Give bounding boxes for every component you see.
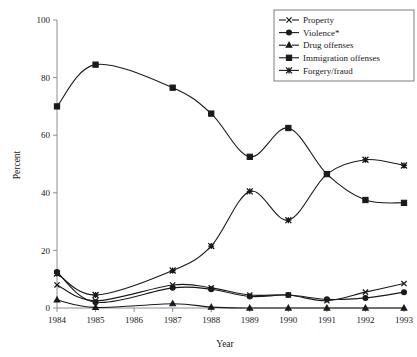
marker-triangle (208, 304, 214, 309)
y-axis-title: Percent (12, 150, 22, 179)
y-axis: 020406080100 Percent (12, 15, 57, 313)
x-tick-label: 1988 (202, 315, 221, 325)
y-tick-label: 40 (41, 188, 51, 198)
marker-asterisk (401, 162, 407, 168)
marker-circle (287, 30, 292, 35)
x-axis-title: Year (216, 339, 234, 349)
marker-asterisk (286, 67, 292, 73)
y-axis-ticks: 020406080100 (37, 15, 58, 313)
series-forgery-fraud (54, 157, 407, 298)
marker-circle (247, 294, 252, 299)
marker-triangle (324, 305, 330, 310)
marker-circle (363, 295, 368, 300)
marker-asterisk (170, 268, 176, 274)
x-axis-ticks: 1984198519861987198819891990199119921993 (48, 308, 414, 325)
marker-circle (209, 287, 214, 292)
legend-label: Forgery/fraud (303, 66, 353, 76)
marker-asterisk (324, 171, 330, 177)
marker-square (93, 62, 98, 67)
series-immigration-offenses (54, 62, 406, 205)
marker-square (363, 197, 368, 202)
y-tick-label: 100 (37, 15, 51, 25)
series-path (57, 272, 404, 303)
marker-asterisk (208, 243, 214, 249)
x-axis: 1984198519861987198819891990199119921993… (48, 308, 414, 349)
series-layer (54, 62, 407, 310)
x-tick-label: 1986 (125, 315, 144, 325)
marker-square (209, 111, 214, 116)
marker-square (54, 104, 59, 109)
legend-label: Immigration offenses (303, 53, 381, 63)
marker-asterisk (285, 217, 291, 223)
series-path (57, 284, 404, 301)
y-tick-label: 80 (41, 73, 51, 83)
line-chart-svg: 020406080100 Percent 1984198519861987198… (0, 0, 417, 357)
legend-label: Violence* (303, 28, 340, 38)
marker-asterisk (247, 188, 253, 194)
marker-triangle (285, 305, 291, 310)
x-tick-label: 1985 (87, 315, 106, 325)
marker-triangle (54, 297, 60, 302)
marker-square (286, 55, 291, 60)
marker-square (170, 85, 175, 90)
marker-circle (170, 285, 175, 290)
marker-square (247, 154, 252, 159)
marker-square (286, 125, 291, 130)
x-tick-label: 1992 (356, 315, 374, 325)
x-tick-label: 1990 (279, 315, 298, 325)
marker-triangle (170, 301, 176, 306)
series-path (57, 64, 404, 203)
legend-label: Property (303, 15, 334, 25)
marker-triangle (247, 305, 253, 310)
series-path (57, 159, 404, 295)
y-tick-label: 60 (41, 130, 51, 140)
x-tick-label: 1993 (395, 315, 414, 325)
x-tick-label: 1991 (318, 315, 336, 325)
x-tick-label: 1989 (241, 315, 260, 325)
y-tick-label: 0 (46, 303, 51, 313)
marker-triangle (401, 305, 407, 310)
series-path (57, 300, 404, 308)
y-tick-label: 20 (41, 246, 51, 256)
marker-triangle (363, 305, 369, 310)
legend-label: Drug offenses (303, 40, 354, 50)
marker-circle (286, 293, 291, 298)
marker-circle (324, 297, 329, 302)
chart-legend: PropertyViolence*Drug offensesImmigratio… (274, 10, 414, 81)
marker-asterisk (93, 292, 99, 298)
marker-circle (402, 290, 407, 295)
x-tick-label: 1984 (48, 315, 67, 325)
marker-asterisk (54, 270, 60, 276)
marker-asterisk (362, 157, 368, 163)
marker-triangle (93, 304, 99, 309)
marker-square (401, 200, 406, 205)
x-tick-label: 1987 (164, 315, 183, 325)
chart-figure: 020406080100 Percent 1984198519861987198… (0, 0, 417, 357)
series-property (54, 281, 406, 303)
